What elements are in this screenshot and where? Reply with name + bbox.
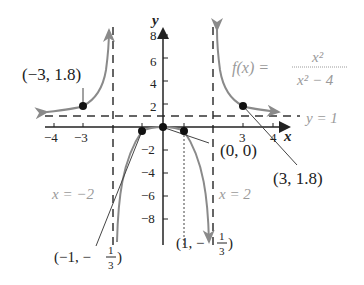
point-neg3 [79,102,87,110]
svg-text:3: 3 [219,245,225,257]
point-pos1 [180,127,188,135]
y-tick-label: 4 [150,76,157,91]
vertical-asymptote-left-label: x = −2 [51,186,94,202]
x-tick-label: −3 [74,130,88,145]
point-label-neg3: (−3, 1.8) [22,65,81,84]
y-tick-label: −2 [141,142,155,157]
vertical-asymptote-right-label: x = 2 [218,186,251,202]
y-tick-label: 8 [150,28,157,43]
svg-text:3: 3 [108,259,114,271]
point-label-origin: (0, 0) [220,141,257,160]
point-label-pos1: (1, − 1 3 ) [176,230,233,257]
y-tick-label: 6 [150,54,157,69]
point-neg1 [138,127,146,135]
function-label-lhs: f(x) = [232,59,269,77]
graph-canvas: y x −4 −3 3 4 8 6 4 2 −2 −4 −6 −8 f(x) =… [0,0,364,285]
x-tick-label: 4 [270,130,277,145]
y-tick-label: −6 [141,188,155,203]
svg-text:(−1, −: (−1, − [54,249,91,266]
y-axis-label: y [150,12,159,28]
svg-text:1: 1 [108,244,114,256]
y-tick-label: −4 [141,165,155,180]
function-label-numerator: x² [311,49,324,65]
svg-text:): ) [117,249,122,266]
x-axis-label: x [283,128,292,144]
y-tick-label: −8 [141,211,155,226]
horizontal-asymptote-label: y = 1 [304,110,338,126]
point-origin [159,123,167,131]
svg-text:(1, −: (1, − [176,235,204,252]
function-label-denominator: x² − 4 [296,72,334,88]
y-tick-label: 2 [150,99,157,114]
point-label-neg1: (−1, − 1 3 ) [54,244,122,271]
svg-text:1: 1 [219,230,225,242]
svg-text:): ) [228,235,233,252]
point-pos3 [239,102,247,110]
point-label-pos3: (3, 1.8) [273,169,323,188]
leader-line-neg1 [96,131,142,246]
x-tick-label: −4 [44,130,58,145]
